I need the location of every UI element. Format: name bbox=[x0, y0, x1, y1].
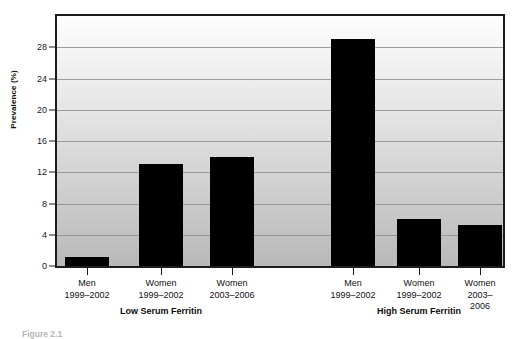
bar bbox=[458, 225, 502, 266]
x-category-years: 1999–2002 bbox=[330, 290, 375, 302]
y-tick-label-4: 4 bbox=[17, 230, 47, 240]
y-tick-label-8: 8 bbox=[17, 199, 47, 209]
x-category-years: 1999–2002 bbox=[396, 290, 441, 302]
x-category-label: Women1999–2002 bbox=[396, 278, 441, 301]
x-tick-mark bbox=[87, 268, 88, 275]
figure-caption: Figure 2.1 bbox=[22, 329, 62, 339]
group-label: Low Serum Ferritin bbox=[120, 306, 202, 316]
y-tick-mark-16 bbox=[49, 141, 55, 142]
bar bbox=[65, 257, 109, 266]
x-category-sex: Women bbox=[396, 278, 441, 290]
bar bbox=[397, 219, 441, 266]
y-tick-label-12: 12 bbox=[17, 167, 47, 177]
x-category-sex: Men bbox=[64, 278, 109, 290]
y-tick-mark-0 bbox=[49, 266, 55, 267]
x-tick-mark bbox=[480, 268, 481, 275]
y-tick-mark-12 bbox=[49, 172, 55, 173]
x-category-sex: Women bbox=[461, 278, 499, 290]
y-tick-mark-20 bbox=[49, 109, 55, 110]
x-category-label: Women1999–2002 bbox=[138, 278, 183, 301]
x-category-years: 1999–2002 bbox=[64, 290, 109, 302]
plot-area bbox=[55, 14, 505, 268]
gridline-20 bbox=[57, 110, 503, 111]
x-category-years: 2003–2006 bbox=[209, 290, 254, 302]
x-tick-mark bbox=[353, 268, 354, 275]
x-category-label: Men1999–2002 bbox=[330, 278, 375, 301]
x-category-sex: Women bbox=[138, 278, 183, 290]
bar bbox=[331, 39, 375, 266]
bar bbox=[139, 164, 183, 266]
x-category-years: 1999–2002 bbox=[138, 290, 183, 302]
x-tick-mark bbox=[232, 268, 233, 275]
x-category-label: Women2003–2006 bbox=[209, 278, 254, 301]
x-category-sex: Men bbox=[330, 278, 375, 290]
y-tick-label-24: 24 bbox=[17, 74, 47, 84]
y-tick-mark-4 bbox=[49, 234, 55, 235]
gridline-28 bbox=[57, 47, 503, 48]
gridline-24 bbox=[57, 79, 503, 80]
gridline-8 bbox=[57, 204, 503, 205]
x-category-years: 2003–2006 bbox=[461, 290, 499, 313]
x-category-label: Men1999–2002 bbox=[64, 278, 109, 301]
y-tick-label-28: 28 bbox=[17, 42, 47, 52]
group-label: High Serum Ferritin bbox=[377, 306, 461, 316]
gridline-12 bbox=[57, 172, 503, 173]
x-tick-mark bbox=[419, 268, 420, 275]
x-category-sex: Women bbox=[209, 278, 254, 290]
x-tick-mark bbox=[161, 268, 162, 275]
y-tick-mark-8 bbox=[49, 203, 55, 204]
y-tick-label-0: 0 bbox=[17, 261, 47, 271]
bar bbox=[210, 157, 254, 266]
gridline-16 bbox=[57, 141, 503, 142]
y-tick-mark-28 bbox=[49, 47, 55, 48]
x-category-label: Women2003–2006 bbox=[461, 278, 499, 313]
y-tick-label-16: 16 bbox=[17, 136, 47, 146]
y-tick-mark-24 bbox=[49, 78, 55, 79]
y-tick-label-20: 20 bbox=[17, 105, 47, 115]
